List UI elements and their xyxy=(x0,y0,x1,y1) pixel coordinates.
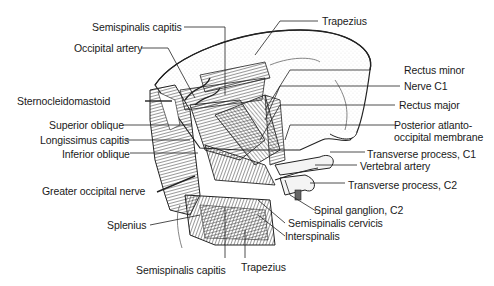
label-transverse-process-c2: Transverse process, C2 xyxy=(348,179,457,191)
label-semispinalis-capitis-bottom: Semispinalis capitis xyxy=(136,264,226,276)
label-posterior-atlanto-line1: Posterior atlanto- xyxy=(394,119,472,131)
label-trapezius-top: Trapezius xyxy=(322,15,367,27)
label-inferior-oblique: Inferior oblique xyxy=(62,148,130,160)
label-vertebral-artery: Vertebral artery xyxy=(360,160,430,172)
label-splenius: Splenius xyxy=(107,219,146,231)
label-nerve-c1: Nerve C1 xyxy=(404,80,448,92)
label-transverse-process-c1: Transverse process, C1 xyxy=(367,148,476,160)
label-interspinalis: Interspinalis xyxy=(285,230,340,242)
label-occipital-artery: Occipital artery xyxy=(74,42,142,54)
label-superior-oblique: Superior oblique xyxy=(49,119,124,131)
label-rectus-minor: Rectus minor xyxy=(404,64,465,76)
label-semispinalis-cervicis: Semispinalis cervicis xyxy=(288,217,383,229)
label-posterior-atlanto-line2: occipital membrane xyxy=(394,131,483,143)
label-rectus-major: Rectus major xyxy=(399,99,460,111)
label-longissimus-capitis: Longissimus capitis xyxy=(40,134,129,146)
label-semispinalis-capitis-top: Semispinalis capitis xyxy=(92,21,182,33)
label-sternocleidomastoid: Sternocleidomastoid xyxy=(17,95,110,107)
label-greater-occipital-nerve: Greater occipital nerve xyxy=(42,185,145,197)
label-spinal-ganglion-c2: Spinal ganglion, C2 xyxy=(314,204,403,216)
anatomy-figure: Semispinalis capitis Occipital artery St… xyxy=(0,0,494,286)
label-trapezius-bottom: Trapezius xyxy=(241,261,286,273)
